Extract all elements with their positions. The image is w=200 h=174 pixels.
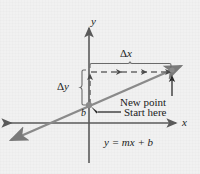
delta-x-variable: x [127, 47, 132, 59]
y-axis-label: y [91, 16, 96, 27]
x-axis-label: x [182, 117, 187, 128]
start-here-callout-arrow [91, 107, 121, 114]
start-point-marker [86, 102, 92, 108]
delta-y-dashed-arrow [87, 74, 93, 105]
delta-y-variable: y [64, 80, 69, 92]
line-graph-figure: y x Δx Δy New point Start here b y = mx … [0, 0, 200, 174]
start-here-label: Start here [124, 107, 166, 118]
new-point-callout-arrow [169, 75, 175, 96]
new-point-marker [169, 67, 174, 72]
diagram-canvas [0, 0, 200, 174]
delta-x-brace [90, 62, 171, 68]
delta-y-label: Δy [57, 81, 69, 92]
delta-x-label: Δx [120, 48, 132, 59]
intercept-label-b: b [81, 108, 86, 118]
line-equation-label: y = mx + b [104, 137, 153, 148]
delta-y-brace [80, 70, 86, 105]
